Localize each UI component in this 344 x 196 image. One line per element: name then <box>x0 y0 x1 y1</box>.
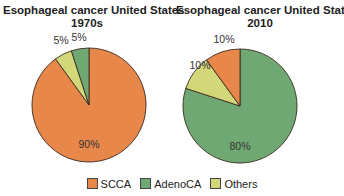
legend-label: Others <box>224 178 257 190</box>
slice-label: 80% <box>229 140 250 152</box>
legend-swatch <box>140 178 151 189</box>
legend-item-scca: SCCA <box>87 178 132 190</box>
slice-label: 90% <box>78 138 99 150</box>
slice-label: 10% <box>189 59 210 71</box>
legend-swatch <box>210 178 221 189</box>
legend-item-others: Others <box>210 178 257 190</box>
legend-swatch <box>87 178 98 189</box>
slice-label: 10% <box>213 33 234 45</box>
legend-label: SCCA <box>101 178 132 190</box>
pie-charts: 90%5%5%10%80%10% <box>0 0 344 196</box>
legend: SCCA AdenoCA Others <box>0 178 344 190</box>
legend-label: AdenoCA <box>154 178 201 190</box>
legend-item-adenoca: AdenoCA <box>140 178 201 190</box>
slice-label: 5% <box>71 31 86 43</box>
slice-label: 5% <box>53 34 68 46</box>
